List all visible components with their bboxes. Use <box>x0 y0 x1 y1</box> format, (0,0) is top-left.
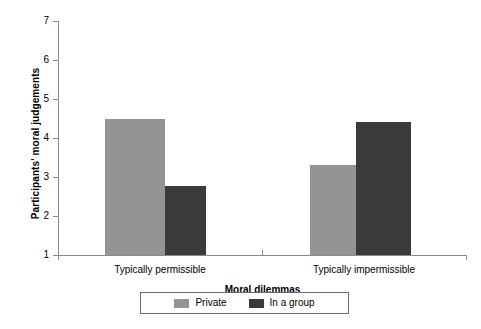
y-tick-label-6: 6 <box>43 53 49 66</box>
x-axis-cap-right <box>466 255 467 260</box>
y-tick-2: 2 <box>53 216 58 217</box>
y-tick-label-5: 5 <box>43 92 49 105</box>
y-tick-5: 5 <box>53 99 58 100</box>
y-axis-title: Participants' moral judgements <box>30 39 41 249</box>
legend-swatch-in-a-group-icon <box>249 299 264 308</box>
chart-legend: Private In a group <box>140 292 349 314</box>
x-tick-center <box>262 250 263 255</box>
legend-swatch-private-icon <box>174 299 189 308</box>
plot-area: 7 6 5 4 3 2 1 Typically permissible Typi… <box>58 21 467 255</box>
bar-in-a-group-typically-permissible <box>165 186 206 255</box>
y-tick-label-1: 1 <box>43 248 49 261</box>
x-tick-label-typically-impermissible: Typically impermissible <box>313 264 415 275</box>
y-tick-label-4: 4 <box>43 131 49 144</box>
legend-label-in-a-group: In a group <box>270 297 315 309</box>
legend-item-in-a-group: In a group <box>249 297 315 309</box>
y-tick-label-7: 7 <box>43 14 49 27</box>
y-axis-line <box>58 21 59 255</box>
y-tick-7: 7 <box>53 21 58 22</box>
x-tick-label-typically-permissible: Typically permissible <box>114 264 206 275</box>
bar-in-a-group-typically-impermissible <box>356 122 411 255</box>
y-tick-4: 4 <box>53 138 58 139</box>
bar-private-typically-permissible <box>105 119 165 255</box>
legend-label-private: Private <box>195 297 226 309</box>
x-axis-line <box>58 255 467 256</box>
bar-chart-figure: Participants' moral judgements 7 6 5 4 3… <box>0 0 481 329</box>
y-tick-label-2: 2 <box>43 209 49 222</box>
x-axis-cap-left <box>58 255 59 260</box>
y-tick-3: 3 <box>53 177 58 178</box>
y-tick-label-3: 3 <box>43 170 49 183</box>
y-tick-6: 6 <box>53 60 58 61</box>
legend-item-private: Private <box>174 297 226 309</box>
bar-private-typically-impermissible <box>310 165 356 255</box>
